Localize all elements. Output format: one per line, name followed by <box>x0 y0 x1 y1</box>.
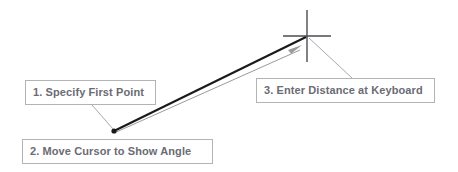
callout-specify-first-point: 1. Specify First Point <box>25 80 156 105</box>
first-point-marker <box>111 128 116 133</box>
callout-enter-distance-keyboard: 3. Enter Distance at Keyboard <box>256 78 435 103</box>
direction-arrowhead-icon <box>287 45 302 57</box>
diagram-canvas: 1. Specify First Point 2. Move Cursor to… <box>0 0 458 172</box>
leader-line-callout-1 <box>92 105 113 129</box>
callout-move-cursor-show-angle-label: 2. Move Cursor to Show Angle <box>23 146 198 157</box>
callout-specify-first-point-label: 1. Specify First Point <box>26 87 151 98</box>
callout-enter-distance-keyboard-label: 3. Enter Distance at Keyboard <box>257 85 430 96</box>
callout-move-cursor-show-angle: 2. Move Cursor to Show Angle <box>22 139 213 164</box>
leader-line-callout-3 <box>309 38 352 78</box>
crosshair-cursor-icon <box>283 10 331 62</box>
